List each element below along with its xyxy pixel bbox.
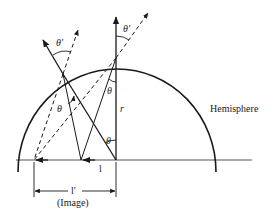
label-radius: r: [120, 103, 124, 114]
refracted-ray-top-dashed: [116, 13, 148, 58]
angle-arc-theta-prime-top: [116, 36, 129, 40]
label-object-distance: l: [99, 163, 102, 174]
incident-ray-left: [63, 74, 81, 160]
angle-arc-theta-top: [109, 79, 116, 82]
label-theta-left: θ: [57, 103, 62, 114]
label-theta-prime-left: θ′: [56, 37, 64, 48]
hemisphere-arc: [18, 69, 216, 172]
label-image-caption: (Image): [57, 197, 89, 209]
angle-arc-theta-prime-left: [53, 51, 71, 55]
label-hemisphere: Hemisphere: [210, 103, 259, 114]
label-theta-prime-top: θ′: [123, 23, 131, 34]
label-theta-top: θ: [107, 85, 112, 96]
label-image-distance: l′: [71, 185, 76, 196]
virtual-ray-left-dashed: [34, 74, 63, 160]
hemisphere-refraction-diagram: θ′ θ′ θ θ θ r Hemisphere l l′ (Image): [0, 0, 276, 219]
virtual-ray-top-dashed: [34, 58, 116, 160]
label-theta-center: θ: [106, 135, 111, 146]
